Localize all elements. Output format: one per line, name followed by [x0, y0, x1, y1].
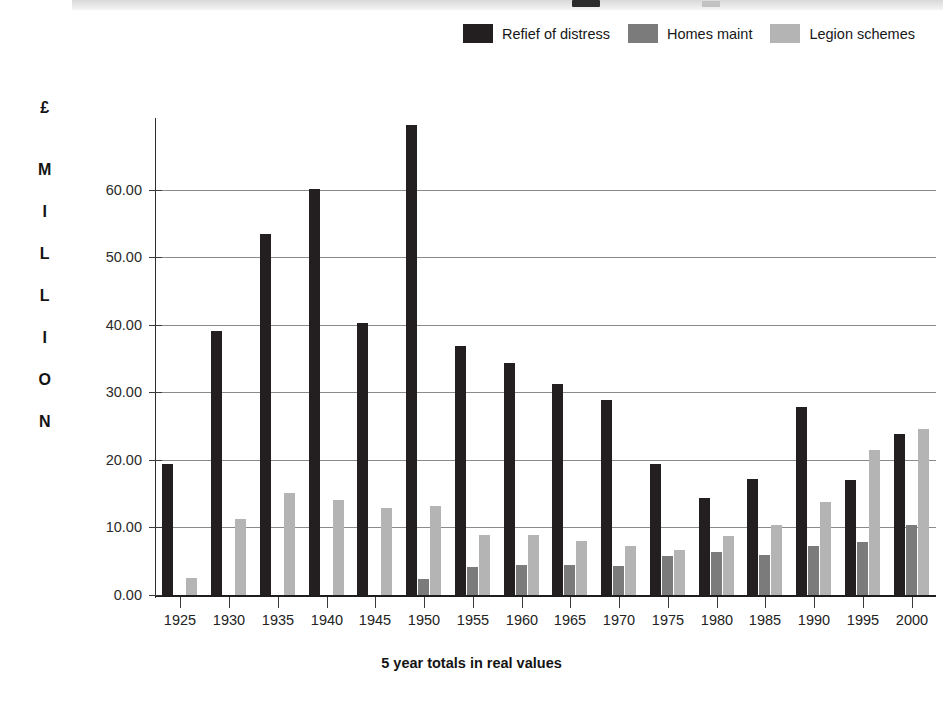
bar-1975-series-0 — [650, 464, 661, 595]
bar-1965-series-0 — [552, 384, 563, 595]
cropped-title-glyph-secondary — [702, 1, 720, 7]
x-axis-tick-mark-1965 — [570, 597, 571, 608]
y-axis-tick-label-60: 60.00 — [72, 182, 142, 198]
y-axis-caption-char-1: M — [38, 162, 51, 178]
bar-1970-series-0 — [601, 400, 612, 595]
y-axis-tick-label-0: 0.00 — [72, 587, 142, 603]
x-axis-tick-mark-1970 — [619, 597, 620, 608]
bar-1970-series-2 — [625, 546, 636, 595]
y-axis-caption-char-3: L — [40, 246, 50, 262]
bar-1935-series-2 — [284, 493, 295, 595]
y-axis-tick-mark-40 — [149, 325, 162, 326]
legend-item-1: Homes maint — [628, 24, 752, 43]
x-axis-tick-labels: 1925193019351940194519501955196019651970… — [156, 612, 936, 634]
y-axis-caption-char-4: L — [40, 288, 50, 304]
y-axis-tick-mark-0 — [149, 595, 162, 596]
x-axis-tick-mark-1960 — [522, 597, 523, 608]
bar-1960-series-1 — [516, 565, 527, 595]
y-axis-tick-label-20: 20.00 — [72, 452, 142, 468]
x-axis-tick-mark-1925 — [180, 597, 181, 608]
bar-1990-series-1 — [808, 546, 819, 595]
bar-1930-series-2 — [235, 519, 246, 595]
bar-group-1940 — [309, 122, 344, 595]
bar-group-1975 — [650, 122, 685, 595]
x-axis-ticks — [156, 597, 936, 609]
y-axis-tick-label-50: 50.00 — [72, 249, 142, 265]
bar-group-1930 — [211, 122, 246, 595]
y-axis-caption-char-2: I — [42, 204, 46, 220]
bar-1965-series-2 — [576, 541, 587, 595]
bar-1985-series-1 — [759, 555, 770, 595]
bar-group-1935 — [260, 122, 295, 595]
bar-group-1960 — [504, 122, 539, 595]
bar-1935-series-0 — [260, 234, 271, 596]
bar-1945-series-0 — [357, 323, 368, 595]
bar-group-1950 — [406, 122, 441, 595]
legend-item-2: Legion schemes — [770, 24, 915, 43]
cropped-title-band — [72, 0, 943, 10]
bar-1945-series-2 — [381, 508, 392, 595]
bar-1950-series-0 — [406, 125, 417, 595]
bar-1955-series-0 — [455, 346, 466, 595]
bar-1940-series-0 — [309, 189, 320, 595]
y-axis-caption-char-6: O — [38, 372, 50, 388]
bar-group-1980 — [699, 122, 734, 595]
y-axis-tick-mark-50 — [149, 257, 162, 258]
bar-1995-series-2 — [869, 450, 880, 595]
x-axis-title: 5 year totals in real values — [0, 655, 943, 671]
x-axis-tick-mark-1975 — [668, 597, 669, 608]
bar-group-1925 — [162, 122, 197, 595]
x-axis-tick-mark-1945 — [375, 597, 376, 608]
bar-1965-series-1 — [564, 565, 575, 595]
y-axis-tick-label-40: 40.00 — [72, 317, 142, 333]
x-axis-tick-mark-1935 — [278, 597, 279, 608]
bar-group-2000 — [894, 122, 929, 595]
bar-group-1945 — [357, 122, 392, 595]
y-axis-caption-char-5: I — [42, 330, 46, 346]
legend-item-0: Refief of distress — [463, 24, 610, 43]
x-axis-tick-mark-1995 — [863, 597, 864, 608]
bar-1990-series-2 — [820, 502, 831, 595]
bar-1980-series-1 — [711, 552, 722, 595]
bar-1925-series-2 — [186, 578, 197, 595]
x-axis-tick-mark-1990 — [814, 597, 815, 608]
bar-1950-series-2 — [430, 506, 441, 595]
y-axis-tick-label-30: 30.00 — [72, 384, 142, 400]
bar-1995-series-1 — [857, 542, 868, 595]
bar-1975-series-1 — [662, 556, 673, 595]
x-axis-tick-mark-1940 — [327, 597, 328, 608]
bar-1970-series-1 — [613, 566, 624, 595]
bar-2000-series-2 — [918, 429, 929, 595]
bar-group-1965 — [552, 122, 587, 595]
bar-group-1990 — [796, 122, 831, 595]
bar-1960-series-2 — [528, 535, 539, 595]
x-axis-tick-mark-1930 — [229, 597, 230, 608]
legend-swatch-legion-schemes — [770, 24, 800, 43]
bar-1955-series-2 — [479, 535, 490, 595]
legend-swatch-relief-of-distress — [463, 24, 493, 43]
y-axis-caption: £ M I L L I O N — [38, 100, 51, 456]
cropped-title-glyph — [572, 0, 600, 7]
bar-1955-series-1 — [467, 567, 478, 595]
y-axis-caption-char-7: N — [39, 414, 51, 430]
x-axis-tick-mark-1950 — [424, 597, 425, 608]
bar-1980-series-2 — [723, 536, 734, 595]
bar-1940-series-2 — [333, 500, 344, 595]
x-axis-tick-mark-2000 — [912, 597, 913, 608]
bar-1985-series-2 — [771, 525, 782, 595]
y-axis-tick-label-10: 10.00 — [72, 519, 142, 535]
x-axis-tick-mark-1980 — [717, 597, 718, 608]
bar-group-1985 — [747, 122, 782, 595]
x-axis-tick-mark-1955 — [473, 597, 474, 608]
bar-1995-series-0 — [845, 480, 856, 595]
y-axis-tick-labels: 60.0050.0040.0030.0020.0010.000.00 — [72, 0, 142, 701]
bar-1975-series-2 — [674, 550, 685, 595]
y-axis-caption-char-0: £ — [40, 100, 49, 116]
legend-label-2: Legion schemes — [809, 26, 915, 42]
legend-label-1: Homes maint — [667, 26, 752, 42]
bar-1990-series-0 — [796, 407, 807, 595]
x-axis-tick-mark-1985 — [765, 597, 766, 608]
chart-legend: Refief of distress Homes maint Legion sc… — [463, 24, 915, 43]
bar-group-1995 — [845, 122, 880, 595]
y-axis-tick-mark-10 — [149, 527, 162, 528]
